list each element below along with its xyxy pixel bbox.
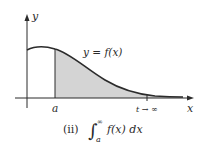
y-axis-arrow-icon: [25, 14, 30, 21]
upper-marker-label: t → ∞: [136, 105, 158, 114]
caption-index: (ii): [63, 123, 79, 136]
x-axis-label: x: [187, 102, 194, 115]
y-axis-label: y: [31, 10, 39, 23]
improper-integral-diagram: y x y = f(x) a t → ∞ (ii) ∫ ∞ a f(x) dx: [0, 0, 203, 150]
integrand: f(x) dx: [106, 123, 143, 136]
integral-lower-limit: a: [96, 135, 101, 144]
lower-limit-label: a: [52, 102, 58, 114]
curve-label: y = f(x): [82, 46, 122, 58]
integral-upper-limit: ∞: [97, 118, 103, 126]
x-axis-arrow-icon: [187, 96, 194, 101]
caption: (ii) ∫ ∞ a f(x) dx: [63, 118, 143, 144]
